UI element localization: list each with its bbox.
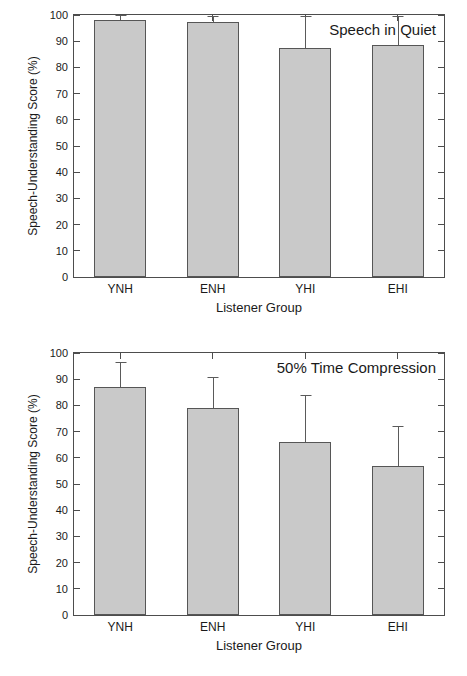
y-tick-mark-right — [438, 146, 444, 147]
y-tick-label: 0 — [62, 269, 68, 285]
y-tick-label: 80 — [56, 397, 68, 413]
y-tick-mark-right — [438, 484, 444, 485]
bar-ynh — [94, 387, 146, 615]
bar-ehi — [372, 466, 424, 615]
error-bar-ynh — [120, 15, 121, 20]
y-tick-label: 100 — [50, 7, 68, 23]
y-tick-mark-left — [74, 353, 80, 354]
y-tick-mark-left — [74, 172, 80, 173]
x-tick-label-enh: ENH — [200, 282, 225, 297]
y-tick-mark-right — [438, 67, 444, 68]
y-tick-mark-left — [74, 588, 80, 589]
y-axis-title-bottom: Speech-Understanding Score (%) — [26, 352, 42, 616]
x-axis-title-bottom: Listener Group — [73, 638, 445, 653]
y-axis-title-top: Speech-Understanding Score (%) — [26, 14, 42, 278]
y-tick-label: 90 — [56, 371, 68, 387]
y-tick-mark-left — [74, 431, 80, 432]
y-tick-mark-left — [74, 536, 80, 537]
y-tick-mark-left — [74, 146, 80, 147]
y-tick-label: 50 — [56, 476, 68, 492]
error-bar-yhi — [305, 395, 306, 442]
error-bar-cap — [208, 16, 219, 17]
error-bar-ehi — [398, 426, 399, 465]
y-tick-mark-right — [438, 405, 444, 406]
y-tick-label: 60 — [56, 112, 68, 128]
y-tick-mark-left — [74, 405, 80, 406]
plot-area-top: Speech in Quiet 0102030405060708090100YN… — [73, 14, 445, 278]
y-tick-label: 40 — [56, 164, 68, 180]
y-tick-mark-right — [438, 457, 444, 458]
y-tick-mark-left — [74, 615, 80, 616]
y-tick-mark-right — [438, 198, 444, 199]
y-tick-mark-left — [74, 224, 80, 225]
x-tick-label-ynh: YNH — [108, 620, 133, 635]
error-bar-cap — [208, 377, 219, 378]
y-tick-label: 30 — [56, 528, 68, 544]
y-tick-label: 70 — [56, 424, 68, 440]
error-bar-cap — [115, 362, 126, 363]
y-tick-label: 100 — [50, 345, 68, 361]
y-tick-mark-right — [438, 119, 444, 120]
bar-yhi — [279, 48, 331, 277]
y-tick-mark-right — [438, 277, 444, 278]
error-bar-yhi — [305, 16, 306, 47]
y-tick-mark-right — [438, 431, 444, 432]
y-tick-mark-right — [438, 250, 444, 251]
x-tick-mark-top — [305, 353, 306, 359]
y-tick-mark-right — [438, 588, 444, 589]
y-tick-mark-left — [74, 198, 80, 199]
error-bar-cap — [115, 15, 126, 16]
y-tick-mark-left — [74, 15, 80, 16]
y-tick-mark-right — [438, 562, 444, 563]
y-tick-mark-right — [438, 353, 444, 354]
y-tick-mark-right — [438, 379, 444, 380]
y-tick-mark-left — [74, 93, 80, 94]
x-tick-mark-top — [397, 353, 398, 359]
y-tick-label: 50 — [56, 138, 68, 154]
y-tick-label: 80 — [56, 59, 68, 75]
figure-bar-charts: Speech in Quiet 0102030405060708090100YN… — [0, 0, 467, 676]
error-bar-ehi — [398, 16, 399, 45]
error-bar-enh — [213, 16, 214, 21]
error-bar-enh — [213, 377, 214, 408]
y-tick-mark-right — [438, 15, 444, 16]
panel-annotation-top: Speech in Quiet — [329, 21, 436, 38]
y-tick-mark-left — [74, 119, 80, 120]
bar-ynh — [94, 20, 146, 277]
chart-panel-time-compression: 50% Time Compression 0102030405060708090… — [0, 338, 467, 676]
x-tick-mark-top — [212, 353, 213, 359]
x-tick-label-yhi: YHI — [295, 620, 315, 635]
y-tick-mark-left — [74, 562, 80, 563]
y-tick-mark-right — [438, 615, 444, 616]
bar-yhi — [279, 442, 331, 615]
y-tick-mark-left — [74, 457, 80, 458]
y-tick-mark-right — [438, 224, 444, 225]
bar-enh — [187, 408, 239, 615]
y-tick-label: 60 — [56, 450, 68, 466]
y-tick-label: 10 — [56, 581, 68, 597]
chart-panel-speech-in-quiet: Speech in Quiet 0102030405060708090100YN… — [0, 0, 467, 338]
y-tick-mark-right — [438, 41, 444, 42]
y-tick-mark-right — [438, 172, 444, 173]
x-tick-label-ehi: EHI — [388, 620, 408, 635]
y-tick-mark-right — [438, 93, 444, 94]
plot-area-bottom: 50% Time Compression 0102030405060708090… — [73, 352, 445, 616]
bar-enh — [187, 22, 239, 277]
y-tick-label: 0 — [62, 607, 68, 623]
y-tick-label: 20 — [56, 217, 68, 233]
x-tick-label-ynh: YNH — [108, 282, 133, 297]
y-tick-label: 10 — [56, 243, 68, 259]
y-tick-label: 40 — [56, 502, 68, 518]
error-bar-ynh — [120, 362, 121, 387]
y-tick-mark-left — [74, 510, 80, 511]
bar-ehi — [372, 45, 424, 277]
y-tick-mark-left — [74, 484, 80, 485]
y-tick-label: 30 — [56, 190, 68, 206]
x-axis-title-top: Listener Group — [73, 300, 445, 315]
x-tick-mark-top — [120, 353, 121, 359]
error-bar-cap — [393, 16, 404, 17]
y-tick-mark-left — [74, 379, 80, 380]
y-tick-mark-right — [438, 510, 444, 511]
y-tick-mark-left — [74, 277, 80, 278]
error-bar-cap — [300, 395, 311, 396]
